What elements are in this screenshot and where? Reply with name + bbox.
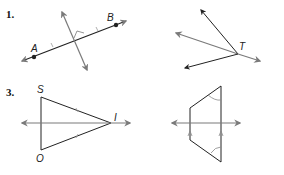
ray-down-left: [185, 54, 238, 68]
right-angle-mark: [74, 31, 84, 38]
point-label-t: T: [239, 41, 245, 52]
figure-3-triangle: [22, 97, 130, 150]
point-label-o: O: [36, 153, 44, 164]
point-label-s: S: [37, 84, 44, 95]
tick-mark: [51, 43, 53, 47]
ray-right: [238, 54, 260, 61]
tick-mark: [96, 27, 98, 31]
trapezoid: [190, 86, 221, 162]
angle-mark: [208, 95, 221, 100]
point-label-a: A: [31, 43, 38, 54]
perpendicular-bisector: [62, 12, 87, 70]
figure-2-rays: [176, 10, 260, 68]
point-label-i: I: [114, 112, 117, 123]
point-b: [114, 23, 118, 27]
figure-4-trapezoid: [172, 86, 240, 162]
point-a: [32, 55, 36, 59]
problem-number-3: 3.: [6, 86, 14, 98]
angle-mark: [211, 147, 221, 153]
problem-number-1: 1.: [6, 8, 14, 20]
point-label-b: B: [107, 12, 114, 23]
